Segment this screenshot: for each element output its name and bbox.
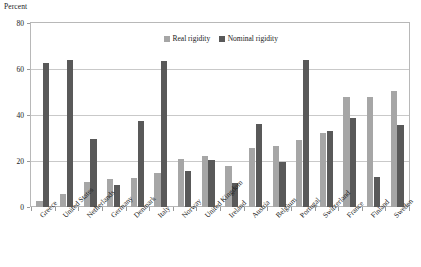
x-axis-tick-mark xyxy=(338,207,339,211)
x-axis-label: Sweden xyxy=(392,213,398,219)
x-axis-tick-mark xyxy=(126,207,127,211)
legend-swatch-icon xyxy=(164,36,170,42)
x-axis-tick-mark xyxy=(149,207,150,211)
x-axis-label: Italy xyxy=(156,213,162,219)
legend-label: Nominal rigidity xyxy=(228,34,278,43)
x-axis-label: Ireland xyxy=(227,213,233,219)
x-axis-label: United Kingdom xyxy=(203,213,209,219)
x-axis-label: Netherlands xyxy=(85,213,91,219)
x-axis-label: Belgium xyxy=(274,213,280,219)
x-axis-tick-mark xyxy=(244,207,245,211)
x-axis-tick-mark xyxy=(385,207,386,211)
x-axis-label: Germany xyxy=(109,213,115,219)
x-axis-tick-mark xyxy=(102,207,103,211)
x-axis-label: Austria xyxy=(250,213,256,219)
x-axis-label: Portugal xyxy=(298,213,304,219)
x-axis-tick-mark xyxy=(291,207,292,211)
x-axis-tick-mark xyxy=(31,207,32,211)
legend-item-nominal-rigidity: Nominal rigidity xyxy=(219,34,278,43)
legend-label: Real rigidity xyxy=(173,34,211,43)
x-axis-label: Denmark xyxy=(132,213,138,219)
x-axis-label: United States xyxy=(61,213,67,219)
chart-legend: Real rigidityNominal rigidity xyxy=(164,34,278,43)
x-axis-tick-mark xyxy=(220,207,221,211)
x-axis-tick-mark xyxy=(409,207,410,211)
x-axis-tick-mark xyxy=(196,207,197,211)
x-axis-tick-mark xyxy=(315,207,316,211)
x-axis-label: Norway xyxy=(179,213,185,219)
legend-swatch-icon xyxy=(219,36,225,42)
x-axis-label: Finland xyxy=(368,213,374,219)
x-axis-label: Greece xyxy=(38,213,44,219)
x-axis-tick-mark xyxy=(362,207,363,211)
x-axis-label: France xyxy=(345,213,351,219)
x-axis-tick-mark xyxy=(55,207,56,211)
x-axis-tick-mark xyxy=(78,207,79,211)
x-axis-tick-mark xyxy=(267,207,268,211)
x-axis-tick-mark xyxy=(173,207,174,211)
x-axis-label: Switzerland xyxy=(321,213,327,219)
legend-item-real-rigidity: Real rigidity xyxy=(164,34,210,43)
bar-chart: Percent 020406080 GreeceUnited StatesNet… xyxy=(0,0,421,267)
